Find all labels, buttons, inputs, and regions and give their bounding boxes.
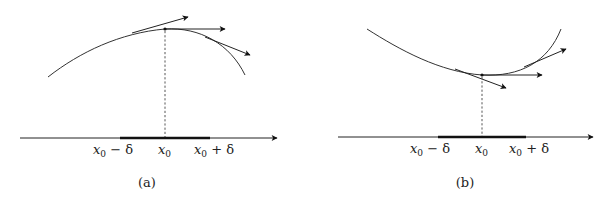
panel-a: x0 − δ x0 x0 + δ (a) xyxy=(20,17,277,190)
max-point xyxy=(163,27,166,30)
label-x0-plus-delta: x0 + δ xyxy=(509,141,549,158)
label-x0-minus-delta: x0 − δ xyxy=(93,142,133,159)
label-x0-minus-delta: x0 − δ xyxy=(410,141,450,158)
caption-a: (a) xyxy=(138,175,156,190)
tangent-arrow-left xyxy=(132,17,188,33)
label-x0: x0 xyxy=(475,141,488,158)
diagram-canvas: x0 − δ x0 x0 + δ (a) x0 − δ x0 xyxy=(0,0,606,205)
label-x0-plus-delta: x0 + δ xyxy=(194,142,234,159)
panel-b: x0 − δ x0 x0 + δ (b) xyxy=(338,29,593,190)
caption-b: (b) xyxy=(456,175,474,190)
tangent-arrow-left xyxy=(455,69,506,88)
min-point xyxy=(480,73,483,76)
tangent-arrow-right xyxy=(205,37,250,55)
convex-curve xyxy=(367,29,561,75)
label-x0: x0 xyxy=(158,142,171,159)
tangent-arrow-right xyxy=(524,49,566,67)
concave-curve xyxy=(48,29,245,77)
